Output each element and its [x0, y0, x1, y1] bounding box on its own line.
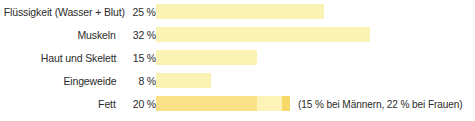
row-bar-zone	[156, 69, 475, 92]
row-bar-zone	[156, 46, 475, 69]
row-bar-zone	[156, 0, 475, 23]
row-label-zone: Muskeln 32 %	[0, 29, 156, 41]
value-label: 8 %	[124, 75, 156, 87]
category-label: Haut und Skelett	[40, 52, 116, 64]
category-label: Eingeweide	[63, 75, 116, 87]
value-label: 32 %	[124, 29, 156, 41]
bar-eingeweide	[156, 73, 211, 88]
row-bar-zone: (15 % bei Männern, 22 % bei Frauen)	[156, 92, 475, 115]
chart-row-haut-und-skelett: Haut und Skelett 15 %	[0, 46, 475, 69]
row-label-zone: Fett 20 %	[0, 98, 156, 110]
bar-fett	[156, 96, 257, 111]
bar-fett-upper-marker	[282, 96, 290, 111]
chart-row-muskeln: Muskeln 32 %	[0, 23, 475, 46]
bar-muskeln	[156, 27, 370, 42]
chart-row-fett: Fett 20 % (15 % bei Männern, 22 % bei Fr…	[0, 92, 475, 115]
row-label-zone: Flüssigkeit (Wasser + Blut) 25 %	[0, 6, 156, 18]
chart-row-fluessigkeit: Flüssigkeit (Wasser + Blut) 25 %	[0, 0, 475, 23]
body-composition-bar-chart: Flüssigkeit (Wasser + Blut) 25 % Muskeln…	[0, 0, 475, 121]
category-label: Fett	[98, 98, 116, 110]
category-label: Muskeln	[78, 29, 116, 41]
chart-row-eingeweide: Eingeweide 8 %	[0, 69, 475, 92]
row-label-zone: Eingeweide 8 %	[0, 75, 156, 87]
fett-annotation: (15 % bei Männern, 22 % bei Frauen)	[298, 98, 463, 110]
bar-haut-und-skelett	[156, 50, 257, 65]
value-label: 20 %	[124, 98, 156, 110]
value-label: 25 %	[133, 6, 156, 18]
row-label-zone: Haut und Skelett 15 %	[0, 52, 156, 64]
value-label: 15 %	[124, 52, 156, 64]
bar-fett-range-segment	[257, 96, 282, 111]
bar-fluessigkeit	[156, 4, 324, 19]
row-bar-zone	[156, 23, 475, 46]
category-label: Flüssigkeit (Wasser + Blut)	[4, 6, 125, 18]
